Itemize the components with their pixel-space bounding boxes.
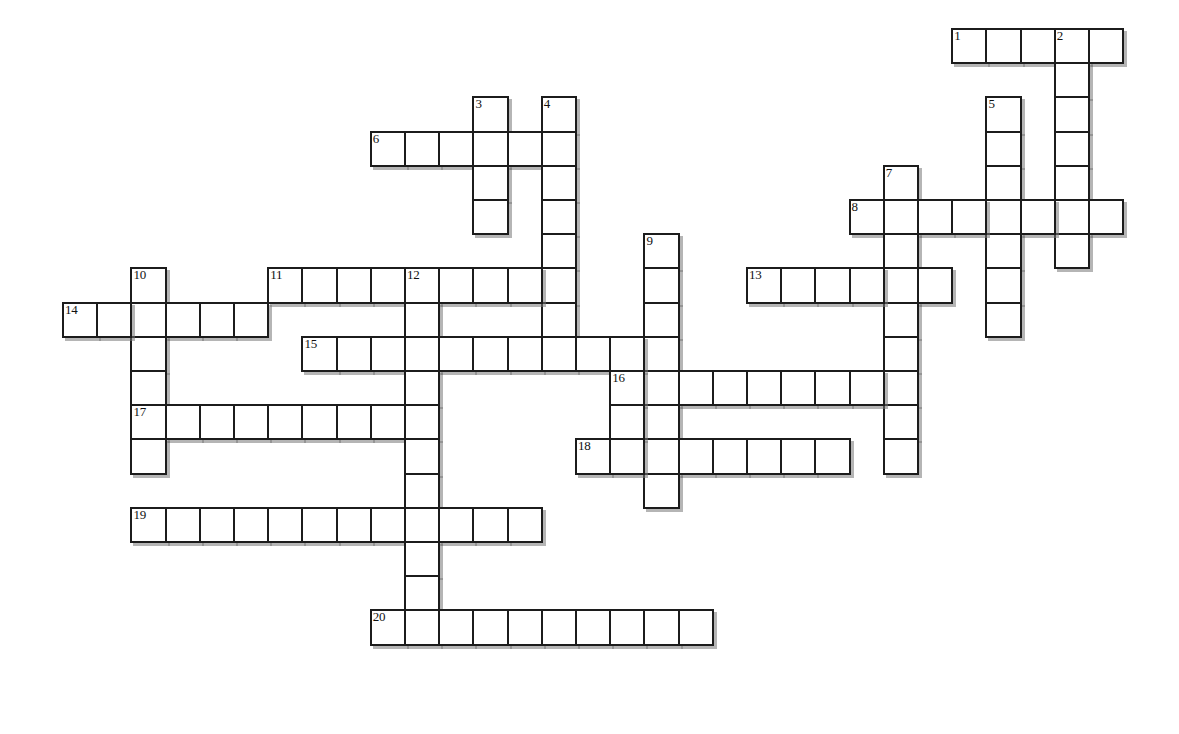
crossword-cell[interactable] (404, 438, 440, 474)
crossword-cell[interactable] (985, 267, 1021, 303)
crossword-cell[interactable] (130, 336, 166, 372)
crossword-cell[interactable] (507, 609, 543, 645)
crossword-cell[interactable] (609, 336, 645, 372)
crossword-cell-numbered[interactable]: 14 (62, 302, 98, 338)
crossword-cell[interactable] (165, 507, 201, 543)
crossword-cell[interactable] (404, 302, 440, 338)
crossword-cell[interactable] (541, 609, 577, 645)
crossword-cell[interactable] (883, 370, 919, 406)
crossword-cell[interactable] (643, 473, 679, 509)
crossword-cell[interactable] (1054, 96, 1090, 132)
crossword-cell-numbered[interactable]: 20 (370, 609, 406, 645)
crossword-cell[interactable] (336, 507, 372, 543)
crossword-cell-numbered[interactable]: 2 (1054, 28, 1090, 64)
crossword-cell[interactable] (985, 199, 1021, 235)
crossword-cell[interactable] (643, 336, 679, 372)
crossword-cell[interactable] (472, 131, 508, 167)
crossword-cell[interactable] (404, 131, 440, 167)
crossword-cell[interactable] (917, 267, 953, 303)
crossword-cell-numbered[interactable]: 15 (301, 336, 337, 372)
crossword-cell[interactable] (746, 438, 782, 474)
crossword-cell[interactable] (404, 473, 440, 509)
crossword-cell[interactable] (814, 370, 850, 406)
crossword-cell[interactable] (404, 370, 440, 406)
crossword-cell[interactable] (1020, 28, 1056, 64)
crossword-cell[interactable] (1054, 62, 1090, 98)
crossword-cell[interactable] (849, 370, 885, 406)
crossword-cell[interactable] (165, 302, 201, 338)
crossword-cell[interactable] (541, 267, 577, 303)
crossword-cell[interactable] (678, 609, 714, 645)
crossword-cell[interactable] (472, 267, 508, 303)
crossword-cell[interactable] (96, 302, 132, 338)
crossword-cell[interactable] (541, 165, 577, 201)
crossword-cell[interactable] (438, 336, 474, 372)
crossword-cell[interactable] (712, 438, 748, 474)
crossword-cell-numbered[interactable]: 10 (130, 267, 166, 303)
crossword-cell[interactable] (507, 336, 543, 372)
crossword-cell-numbered[interactable]: 8 (849, 199, 885, 235)
crossword-cell[interactable] (301, 404, 337, 440)
crossword-cell-numbered[interactable]: 18 (575, 438, 611, 474)
crossword-cell[interactable] (1088, 28, 1124, 64)
crossword-cell[interactable] (609, 404, 645, 440)
crossword-cell[interactable] (1054, 131, 1090, 167)
crossword-cell[interactable] (643, 404, 679, 440)
crossword-cell[interactable] (780, 438, 816, 474)
crossword-cell[interactable] (985, 233, 1021, 269)
crossword-cell[interactable] (301, 267, 337, 303)
crossword-cell[interactable] (267, 507, 303, 543)
crossword-cell[interactable] (541, 233, 577, 269)
crossword-cell[interactable] (165, 404, 201, 440)
crossword-cell[interactable] (849, 267, 885, 303)
crossword-cell[interactable] (404, 541, 440, 577)
crossword-cell[interactable] (199, 302, 235, 338)
crossword-cell[interactable] (199, 507, 235, 543)
crossword-cell-numbered[interactable]: 4 (541, 96, 577, 132)
crossword-cell[interactable] (267, 404, 303, 440)
crossword-cell[interactable] (951, 199, 987, 235)
crossword-cell[interactable] (985, 28, 1021, 64)
crossword-cell[interactable] (1054, 233, 1090, 269)
crossword-cell[interactable] (883, 302, 919, 338)
crossword-cell[interactable] (609, 438, 645, 474)
crossword-cell[interactable] (883, 336, 919, 372)
crossword-cell[interactable] (883, 404, 919, 440)
crossword-cell[interactable] (370, 267, 406, 303)
crossword-cell[interactable] (643, 267, 679, 303)
crossword-cell-numbered[interactable]: 11 (267, 267, 303, 303)
crossword-cell[interactable] (575, 336, 611, 372)
crossword-cell[interactable] (472, 609, 508, 645)
crossword-cell-numbered[interactable]: 5 (985, 96, 1021, 132)
crossword-cell[interactable] (985, 302, 1021, 338)
crossword-cell[interactable] (1054, 165, 1090, 201)
crossword-cell[interactable] (814, 438, 850, 474)
crossword-cell-numbered[interactable]: 9 (643, 233, 679, 269)
crossword-cell[interactable] (712, 370, 748, 406)
crossword-cell[interactable] (472, 199, 508, 235)
crossword-cell[interactable] (883, 267, 919, 303)
crossword-cell[interactable] (609, 609, 645, 645)
crossword-cell[interactable] (404, 609, 440, 645)
crossword-cell-numbered[interactable]: 6 (370, 131, 406, 167)
crossword-cell-numbered[interactable]: 3 (472, 96, 508, 132)
crossword-cell[interactable] (404, 404, 440, 440)
crossword-cell-numbered[interactable]: 17 (130, 404, 166, 440)
crossword-cell[interactable] (780, 370, 816, 406)
crossword-cell[interactable] (678, 438, 714, 474)
crossword-cell[interactable] (678, 370, 714, 406)
crossword-cell[interactable] (541, 131, 577, 167)
crossword-cell[interactable] (336, 267, 372, 303)
crossword-cell[interactable] (507, 131, 543, 167)
crossword-cell[interactable] (404, 575, 440, 611)
crossword-cell[interactable] (643, 609, 679, 645)
crossword-cell[interactable] (575, 609, 611, 645)
crossword-cell[interactable] (780, 267, 816, 303)
crossword-cell[interactable] (438, 131, 474, 167)
crossword-cell[interactable] (438, 609, 474, 645)
crossword-cell[interactable] (336, 336, 372, 372)
crossword-cell[interactable] (370, 336, 406, 372)
crossword-cell[interactable] (643, 302, 679, 338)
crossword-cell[interactable] (233, 507, 269, 543)
crossword-cell[interactable] (917, 199, 953, 235)
